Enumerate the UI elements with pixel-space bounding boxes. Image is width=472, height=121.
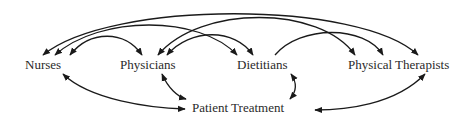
node-physical-therapists: Physical Therapists xyxy=(348,58,449,72)
edge-physicians-patient-treatment xyxy=(162,74,186,99)
edge-nurses-patient-treatment xyxy=(63,74,185,109)
edge-dietitians-patient-treatment xyxy=(290,74,295,99)
node-patient-treatment: Patient Treatment xyxy=(192,101,284,115)
node-dietitians: Dietitians xyxy=(237,58,288,72)
node-physicians: Physicians xyxy=(120,58,176,72)
edge-dietitians-physical-therapists xyxy=(275,33,383,56)
edge-physicians-dietitians xyxy=(167,35,253,55)
edge-physicians-physical-therapists xyxy=(158,18,355,56)
edge-nurses-dietitians xyxy=(55,25,237,55)
diagram-canvas: Nurses Physicians Dietitians Physical Th… xyxy=(0,0,472,121)
edge-physical-therapists-patient-treatment xyxy=(315,74,425,110)
node-nurses: Nurses xyxy=(25,58,61,72)
